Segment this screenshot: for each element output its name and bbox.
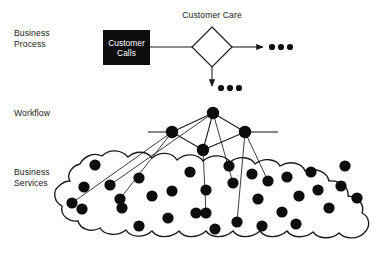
service-node[interactable] [76,203,87,214]
label-workflow: Workflow [14,108,51,118]
service-node[interactable] [66,197,77,208]
service-node[interactable] [200,207,211,218]
ellipsis-down [218,85,242,91]
service-node[interactable] [104,179,115,190]
workflow-node[interactable] [166,126,178,138]
ellipsis-dot [218,85,224,91]
workflow-edges [172,113,245,150]
customer-calls-label-line2: Calls [117,48,136,58]
customer-care-decision-diamond[interactable] [192,27,232,67]
ellipsis-dot [287,44,293,50]
label-business-process-line1: Business [14,28,50,38]
service-node[interactable] [114,193,125,204]
service-node[interactable] [133,172,144,183]
service-node[interactable] [246,168,257,179]
customer-care-label: Customer Care [182,10,242,20]
label-business-process-line2: Process [14,39,46,49]
service-node[interactable] [351,192,362,203]
service-node[interactable] [162,212,173,223]
ellipsis-dot [278,44,284,50]
workflow-graph [148,107,278,156]
layer-labels: Business Process Workflow Business Servi… [14,28,51,188]
service-node[interactable] [78,181,89,192]
service-node[interactable] [256,220,267,231]
service-node[interactable] [89,159,100,170]
service-node[interactable] [231,216,242,227]
service-node[interactable] [252,193,263,204]
label-business-services-line2: Services [14,178,48,188]
diagram-canvas: Business Process Workflow Business Servi… [0,0,391,271]
service-node[interactable] [166,185,177,196]
service-node[interactable] [312,184,323,195]
workflow-edge [203,132,245,150]
service-node[interactable] [146,190,157,201]
service-node[interactable] [281,171,292,182]
service-node[interactable] [262,175,273,186]
diagram-svg: Business Process Workflow Business Servi… [0,0,391,271]
ellipsis-dot [236,85,242,91]
workflow-edge [172,113,213,132]
service-node[interactable] [209,223,220,234]
customer-calls-label-line1: Customer [108,38,145,48]
service-node[interactable] [335,180,346,191]
service-node[interactable] [184,166,195,177]
service-node[interactable] [223,160,234,171]
ellipsis-dot [269,44,275,50]
workflow-node[interactable] [239,126,251,138]
service-node[interactable] [323,202,334,213]
service-node[interactable] [190,207,201,218]
label-business-services-line1: Business [14,167,50,177]
workflow-node[interactable] [207,107,219,119]
service-node[interactable] [276,206,287,217]
service-node[interactable] [339,160,350,171]
business-process-row: Customer Calls Customer Care [103,10,293,91]
service-node[interactable] [290,218,301,229]
service-node[interactable] [133,220,144,231]
service-node[interactable] [293,190,304,201]
service-node[interactable] [305,166,316,177]
ellipsis-dot [227,85,233,91]
workflow-node[interactable] [197,144,209,156]
service-node[interactable] [227,177,238,188]
ellipsis-right [269,44,293,50]
service-node[interactable] [200,184,211,195]
